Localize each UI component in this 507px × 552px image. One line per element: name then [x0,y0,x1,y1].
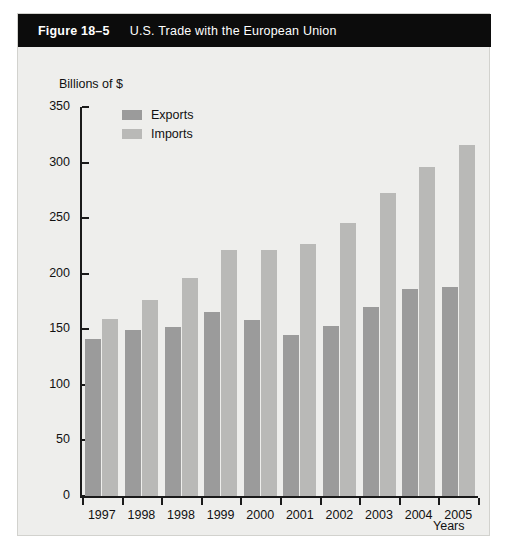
x-axis-tick-label: 2005 [437,508,479,522]
y-axis-tick-label: 350 [32,99,70,113]
bar-exports-2005 [442,287,458,496]
bar-exports-2000 [244,320,260,496]
x-axis-tick [82,498,84,505]
bar-imports-2005 [459,145,475,496]
bar-imports-1997 [102,319,118,496]
legend-label-imports: Imports [151,127,193,141]
bar-imports-2000 [261,250,277,496]
figure-panel: Figure 18–5 U.S. Trade with the European… [17,13,490,536]
chart-legend: Exports Imports [122,105,193,143]
x-axis-tick-label: 2002 [318,508,360,522]
y-axis-tick-label: 150 [32,321,70,335]
figure-number-label: Figure 18–5 [38,24,110,38]
x-axis-tick-label: 1998 [160,508,202,522]
bar-imports-1998 [182,278,198,496]
y-axis-tick-label: 300 [32,155,70,169]
legend-swatch-exports-icon [122,110,142,120]
x-axis-tick-label: 2001 [279,508,321,522]
y-axis-tick-label: 50 [32,432,70,446]
bar-exports-1998 [125,330,141,496]
bar-imports-2003 [380,193,396,496]
x-axis-tick [438,498,440,505]
figure-header-bar: Figure 18–5 U.S. Trade with the European… [18,14,491,47]
x-axis-tick [240,498,242,505]
x-axis-tick [478,498,480,505]
x-axis-tick-label: 2003 [358,508,400,522]
figure-title-label: U.S. Trade with the European Union [130,24,337,38]
x-axis-tick-label: 2004 [398,508,440,522]
x-axis-tick [122,498,124,505]
bars-container [82,107,478,496]
y-axis-tick-label: 0 [32,488,70,502]
x-axis-tick-label: 2000 [239,508,281,522]
legend-label-exports: Exports [151,108,193,122]
bar-exports-1998 [165,327,181,496]
x-axis-tick-label: 1999 [200,508,242,522]
bar-exports-1997 [85,339,101,496]
x-axis-tick [320,498,322,505]
x-axis-tick [280,498,282,505]
bar-exports-2004 [402,289,418,496]
bar-exports-2001 [283,335,299,496]
y-axis-tick-label: 100 [32,377,70,391]
bar-imports-1999 [221,250,237,496]
x-axis-tick [399,498,401,505]
y-axis-tick-label: 200 [32,266,70,280]
bar-imports-2004 [419,167,435,496]
x-axis-tick-label: 1997 [81,508,123,522]
bar-exports-2003 [363,307,379,496]
y-axis-label: Billions of $ [59,77,123,91]
x-axis-line [80,496,478,498]
bar-imports-2002 [340,223,356,496]
y-axis-tick-label: 250 [32,210,70,224]
bar-exports-2002 [323,326,339,496]
bar-imports-1998 [142,300,158,496]
x-axis-tick [359,498,361,505]
bar-imports-2001 [300,244,316,496]
x-axis-tick [161,498,163,505]
legend-item-imports: Imports [122,124,193,143]
legend-swatch-imports-icon [122,129,142,139]
x-axis-tick [201,498,203,505]
x-axis-tick-label: 1998 [120,508,162,522]
legend-item-exports: Exports [122,105,193,124]
chart-plot-area: Billions of $ Years 05010015020025030035… [18,47,491,537]
bar-exports-1999 [204,312,220,496]
